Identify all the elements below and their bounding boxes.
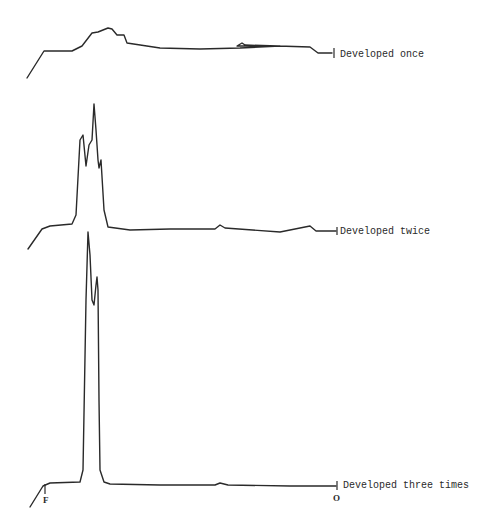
trace-developed-twice: Developed twice bbox=[28, 104, 430, 249]
trace-line bbox=[28, 104, 336, 249]
densitometer-chart: Developed once Developed twice Developed… bbox=[0, 0, 496, 530]
trace-developed-once: Developed once bbox=[27, 28, 424, 78]
trace-developed-three-times: Developed three times F O bbox=[30, 232, 469, 507]
origin-marker: O bbox=[333, 493, 340, 503]
trace-line bbox=[27, 28, 332, 78]
trace-line bbox=[30, 232, 336, 507]
series-label-once: Developed once bbox=[340, 49, 424, 60]
series-label-three: Developed three times bbox=[343, 480, 469, 491]
series-label-twice: Developed twice bbox=[340, 226, 430, 237]
front-marker: F bbox=[43, 495, 49, 505]
